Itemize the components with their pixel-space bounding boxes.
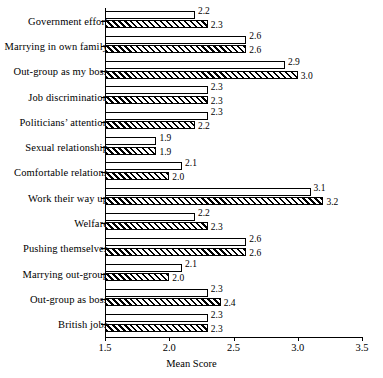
bar-white — [105, 238, 246, 246]
bar-white — [105, 264, 182, 272]
x-axis-tick — [105, 337, 106, 341]
bar-value-label: 2.9 — [288, 57, 300, 67]
bar-group-row: Marrying out-group2.12.0 — [0, 261, 383, 286]
x-axis-tick-label: 3.5 — [355, 342, 368, 354]
bar-value-label: 2.6 — [249, 248, 261, 258]
bar-value-label: 2.3 — [211, 310, 223, 320]
bar-value-label: 2.0 — [172, 172, 184, 182]
y-axis-tick — [101, 299, 105, 300]
bar-value-label: 2.3 — [211, 222, 223, 232]
x-axis-tick — [234, 337, 235, 341]
bar-hatched — [105, 45, 246, 53]
bar-hatched — [105, 222, 208, 230]
x-axis-tick-label: 1.5 — [98, 342, 111, 354]
category-label: Comfortable relations — [14, 167, 108, 178]
bar-white — [105, 112, 208, 120]
bar-white — [105, 188, 311, 196]
bar-hatched — [105, 197, 323, 205]
y-axis-tick — [101, 172, 105, 173]
bar-group-row: Sexual relationship1.91.9 — [0, 135, 383, 160]
category-label: Government effort — [28, 15, 108, 26]
y-axis-tick — [101, 274, 105, 275]
bar-value-label: 2.2 — [198, 121, 210, 131]
bar-value-label: 2.3 — [211, 107, 223, 117]
bar-group-row: Government effort2.22.3 — [0, 8, 383, 33]
bar-white — [105, 162, 182, 170]
bar-hatched — [105, 298, 221, 306]
y-axis-tick — [101, 324, 105, 325]
bar-group-row: Out-group as my boss2.93.0 — [0, 59, 383, 84]
x-axis-tick-label: 3.0 — [291, 342, 304, 354]
bar-group-row: Marrying in own family2.62.6 — [0, 33, 383, 58]
category-label: Marrying in own family — [5, 40, 108, 51]
bar-hatched — [105, 248, 246, 256]
bar-white — [105, 11, 195, 19]
bar-hatched — [105, 324, 208, 332]
x-axis-tick-label: 2.0 — [163, 342, 176, 354]
y-axis-tick — [101, 223, 105, 224]
bar-value-label: 2.3 — [211, 284, 223, 294]
category-label: Pushing themselves — [23, 243, 108, 254]
bar-white — [105, 86, 208, 94]
bar-group-row: Politicians’ attention2.32.2 — [0, 109, 383, 134]
bar-group-row: Welfare2.22.3 — [0, 210, 383, 235]
y-axis-tick — [101, 97, 105, 98]
bar-hatched — [105, 172, 169, 180]
bar-value-label: 2.6 — [249, 31, 261, 41]
category-label: Job discrimination — [28, 91, 108, 102]
bar-value-label: 2.3 — [211, 324, 223, 334]
category-label: Sexual relationship — [25, 142, 108, 153]
bar-value-label: 2.2 — [198, 6, 210, 16]
bar-white — [105, 61, 285, 69]
bar-value-label: 1.9 — [159, 147, 171, 157]
bar-value-label: 2.3 — [211, 20, 223, 30]
bar-hatched — [105, 71, 298, 79]
category-label: Politicians’ attention — [19, 116, 108, 127]
bar-group-row: British jobs2.32.3 — [0, 312, 383, 337]
y-axis-tick — [101, 122, 105, 123]
bar-hatched — [105, 147, 156, 155]
bar-hatched — [105, 20, 208, 28]
x-axis-tick — [298, 337, 299, 341]
bar-value-label: 3.0 — [301, 71, 313, 81]
bar-white — [105, 289, 208, 297]
bar-value-label: 2.6 — [249, 234, 261, 244]
y-axis-tick — [101, 71, 105, 72]
y-axis-tick — [101, 46, 105, 47]
y-axis-tick — [101, 198, 105, 199]
bar-value-label: 2.2 — [198, 208, 210, 218]
category-label: Work their way up — [28, 192, 108, 203]
bar-value-label: 2.6 — [249, 45, 261, 55]
bar-value-label: 2.4 — [224, 298, 236, 308]
bar-group-row: Comfortable relations2.12.0 — [0, 160, 383, 185]
bar-value-label: 2.1 — [185, 259, 197, 269]
bar-white — [105, 213, 195, 221]
x-axis-tick — [362, 337, 363, 341]
bar-value-label: 2.1 — [185, 158, 197, 168]
bar-value-label: 3.2 — [326, 197, 338, 207]
bar-group-row: Work their way up3.13.2 — [0, 185, 383, 210]
bar-hatched — [105, 273, 169, 281]
x-axis-tick — [169, 337, 170, 341]
bar-group-row: Job discrimination2.32.3 — [0, 84, 383, 109]
category-label: Out-group as boss — [30, 293, 108, 304]
bar-hatched — [105, 96, 208, 104]
bar-white — [105, 36, 246, 44]
bar-group-row: Out-group as boss2.32.4 — [0, 286, 383, 311]
bar-value-label: 3.1 — [314, 183, 326, 193]
bar-value-label: 1.9 — [159, 133, 171, 143]
y-axis-tick — [101, 21, 105, 22]
bar-value-label: 2.0 — [172, 273, 184, 283]
category-label: Out-group as my boss — [14, 66, 108, 77]
y-axis-tick — [101, 147, 105, 148]
horizontal-bar-chart: Government effort2.22.3Marrying in own f… — [0, 0, 383, 378]
bar-value-label: 2.3 — [211, 82, 223, 92]
bar-value-label: 2.3 — [211, 96, 223, 106]
category-label: Marrying out-group — [23, 268, 109, 279]
y-axis-tick — [101, 248, 105, 249]
bar-hatched — [105, 121, 195, 129]
x-axis-title: Mean Score — [0, 358, 383, 370]
x-axis-tick-label: 2.5 — [227, 342, 240, 354]
bar-white — [105, 137, 156, 145]
bar-white — [105, 314, 208, 322]
